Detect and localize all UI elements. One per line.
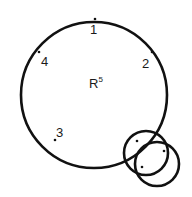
small-dot-2 bbox=[163, 150, 166, 153]
diagram-canvas: 1 2 3 4 R5 bbox=[0, 0, 192, 197]
point-2-label: 2 bbox=[142, 56, 149, 71]
region-label-superscript: 5 bbox=[98, 75, 103, 84]
small-dot-1 bbox=[136, 140, 139, 143]
point-1-dot bbox=[94, 18, 97, 21]
point-3-label: 3 bbox=[56, 125, 63, 140]
point-4-label: 4 bbox=[41, 54, 48, 69]
small-circle-b bbox=[135, 142, 179, 186]
point-1-label: 1 bbox=[90, 22, 97, 37]
point-4-dot bbox=[38, 51, 41, 54]
region-label: R5 bbox=[89, 75, 103, 91]
small-circle-a bbox=[124, 131, 168, 175]
small-dot-3 bbox=[141, 166, 144, 169]
region-label-base: R bbox=[89, 76, 98, 91]
point-2-dot bbox=[151, 51, 154, 54]
